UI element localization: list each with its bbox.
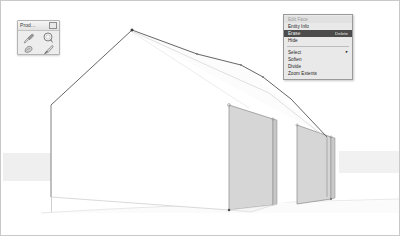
menu-item-soften[interactable]: Soften bbox=[284, 56, 352, 63]
paint-bucket-tool-icon bbox=[42, 32, 54, 44]
menu-item-label: Entity Info bbox=[288, 23, 309, 30]
menu-item-hide[interactable]: Hide bbox=[284, 37, 352, 44]
vertex-ridge bbox=[131, 29, 134, 32]
menu-item-label: Erase bbox=[288, 30, 300, 37]
context-menu[interactable]: Edit Face Entity Info Erase Delete Hide … bbox=[283, 14, 353, 80]
menu-item-erase[interactable]: Erase Delete bbox=[284, 30, 352, 37]
close-icon[interactable] bbox=[49, 22, 57, 29]
menu-item-entity-info[interactable]: Entity Info bbox=[284, 23, 352, 30]
context-menu-header-label: Edit Face bbox=[288, 16, 308, 23]
menu-item-divide[interactable]: Divide bbox=[284, 63, 352, 70]
side-wall-panel-b-inner bbox=[331, 137, 335, 199]
palette-title-bar[interactable]: Prod... bbox=[18, 21, 59, 31]
palette-title-text: Prod... bbox=[20, 21, 35, 30]
menu-item-shortcut: Delete bbox=[335, 30, 348, 37]
vertex-roof-mid-3 bbox=[262, 76, 264, 78]
side-wall-panel-a bbox=[229, 105, 273, 210]
chevron-right-icon: ▸ bbox=[346, 50, 348, 55]
menu-item-label: Zoom Extents bbox=[288, 70, 317, 77]
vertex-roof-mid-2 bbox=[240, 64, 242, 66]
side-wall-panel-b bbox=[297, 125, 331, 204]
menu-item-label: Divide bbox=[288, 63, 301, 70]
menu-separator bbox=[287, 46, 349, 47]
menu-item-zoom-extents[interactable]: Zoom Extents bbox=[284, 70, 352, 77]
vertex-roof-mid-1 bbox=[196, 53, 198, 55]
menu-item-label: Soften bbox=[288, 56, 302, 63]
menu-item-label: Hide bbox=[288, 37, 298, 44]
menu-item-label: Select bbox=[288, 49, 301, 56]
vertex-base-right bbox=[330, 198, 332, 200]
context-menu-header: Edit Face bbox=[284, 16, 352, 23]
eyedropper-tool-icon bbox=[23, 33, 34, 44]
brush-tool-icon bbox=[43, 44, 54, 55]
palette-tool-eraser[interactable] bbox=[19, 44, 39, 55]
eraser-tool-icon bbox=[23, 44, 34, 55]
menu-item-select[interactable]: Select ▸ bbox=[284, 49, 352, 56]
tool-palette[interactable]: Prod... bbox=[17, 20, 60, 55]
palette-tool-brush[interactable] bbox=[39, 44, 59, 55]
modeler-window: Prod... bbox=[0, 0, 400, 236]
vertex-base-center bbox=[228, 209, 230, 211]
horizon-band-right bbox=[339, 151, 399, 173]
palette-tool-paint-bucket[interactable] bbox=[39, 32, 59, 44]
palette-tool-grid bbox=[18, 31, 59, 55]
side-wall-panel-a-inner bbox=[273, 119, 277, 205]
palette-tool-eyedropper[interactable] bbox=[19, 32, 39, 44]
